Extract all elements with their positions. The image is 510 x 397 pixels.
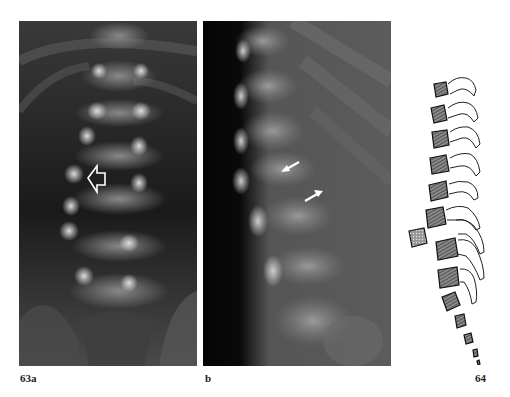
radiograph-63a-image	[19, 21, 197, 366]
radiograph-63b-image	[203, 21, 391, 366]
radiograph-63b	[203, 21, 391, 366]
spine-drawing-image	[400, 70, 510, 365]
spine-drawing-64	[400, 70, 510, 365]
figure-label-63b: b	[205, 372, 211, 384]
radiograph-63a	[19, 21, 197, 366]
figure-label-64: 64	[475, 372, 486, 384]
figure-label-63a: 63a	[20, 372, 37, 384]
